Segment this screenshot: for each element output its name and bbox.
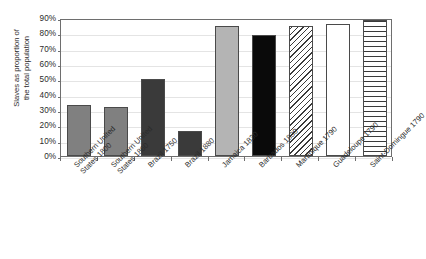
x-axis-category-label: Brazil 1880: [183, 136, 217, 170]
x-axis-category-label-line: Jamaica 1830: [220, 130, 260, 170]
x-axis-category-label: Saint-Domingue 1790: [368, 111, 426, 170]
x-axis-category-label-line: Saint-Domingue 1790: [368, 111, 426, 170]
x-axis-category-label-line: Brazil 1880: [183, 136, 217, 170]
x-axis-category-label: Jamaica 1830: [220, 130, 260, 170]
